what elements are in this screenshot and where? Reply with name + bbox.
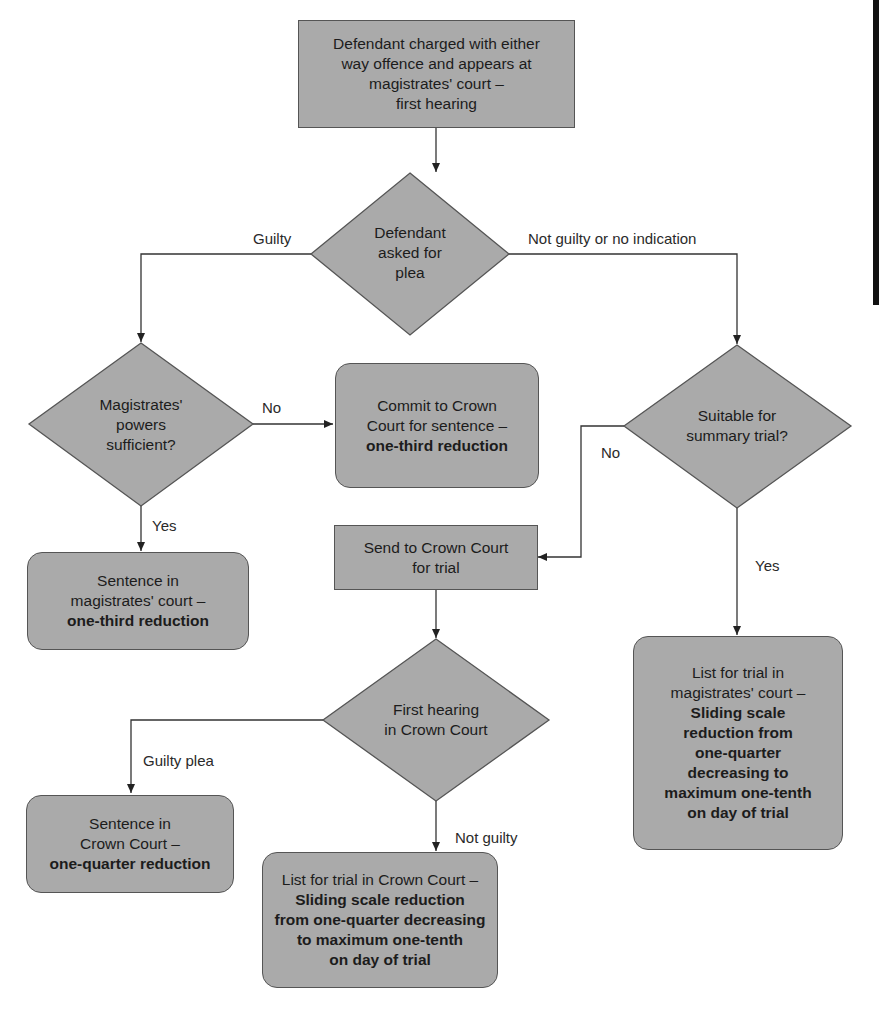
node-first-hearing-crown: First hearing in Crown Court [371, 697, 501, 743]
node-powers-line: Magistrates' [99, 395, 182, 415]
edge-label-not-guilty: Not guilty [455, 829, 518, 846]
node-start-line: Defendant charged with either [333, 34, 540, 54]
node-list-mags: List for trial in magistrates' court – S… [633, 636, 843, 850]
node-powers-line: powers [116, 415, 166, 435]
node-list-crown-line: List for trial in Crown Court – [282, 870, 478, 890]
node-first-hearing-line: First hearing [393, 700, 479, 720]
node-commit-bold-line: one-third reduction [366, 436, 508, 456]
node-sentence-crown: Sentence in Crown Court – one-quarter re… [26, 795, 234, 893]
node-list-mags-bold-line: decreasing to [688, 763, 789, 783]
node-first-hearing-line: in Crown Court [384, 720, 487, 740]
node-sentence-mags-line: Sentence in [97, 571, 179, 591]
node-list-mags-bold-line: one-quarter [695, 743, 781, 763]
node-sentence-crown-line: Sentence in [89, 814, 171, 834]
node-send-crown: Send to Crown Court for trial [334, 525, 538, 590]
node-powers: Magistrates' powers sufficient? [81, 392, 201, 458]
node-plea-line: asked for [378, 243, 442, 263]
node-powers-line: sufficient? [106, 435, 176, 455]
node-list-crown: List for trial in Crown Court – Sliding … [262, 852, 498, 988]
node-suitable-line: Suitable for [698, 406, 776, 426]
edge-label-powers-yes: Yes [152, 517, 176, 534]
edge-label-guilty: Guilty [253, 230, 291, 247]
edge-plea-to-powers [141, 254, 311, 342]
node-list-mags-bold-line: reduction from [683, 723, 792, 743]
node-start-line: first hearing [396, 94, 477, 114]
node-send-crown-line: for trial [412, 558, 459, 578]
node-list-mags-bold-line: maximum one-tenth [664, 783, 811, 803]
edge-label-suitable-yes: Yes [755, 557, 779, 574]
node-list-crown-bold-line: Sliding scale reduction [295, 890, 465, 910]
node-plea: Defendant asked for plea [350, 220, 470, 286]
node-send-crown-line: Send to Crown Court [364, 538, 509, 558]
edge-label-guilty-plea: Guilty plea [143, 752, 214, 769]
node-list-mags-bold-line: on day of trial [687, 803, 789, 823]
page-edge-bar [873, 0, 879, 305]
node-sentence-mags-bold-line: one-third reduction [67, 611, 209, 631]
node-suitable-line: summary trial? [686, 426, 788, 446]
node-plea-line: Defendant [374, 223, 446, 243]
node-sentence-crown-bold-line: one-quarter reduction [49, 854, 210, 874]
edge-label-not-guilty-or-no-indication: Not guilty or no indication [528, 230, 696, 247]
edge-plea-to-suitable [509, 254, 737, 344]
node-start-line: magistrates' court – [369, 74, 504, 94]
node-list-mags-line: List for trial in [692, 663, 784, 683]
node-sentence-mags: Sentence in magistrates' court – one-thi… [27, 552, 249, 650]
node-suitable: Suitable for summary trial? [672, 403, 802, 449]
node-list-mags-line: magistrates' court – [671, 683, 806, 703]
node-plea-line: plea [395, 263, 424, 283]
edge-label-suitable-no: No [601, 444, 620, 461]
node-commit: Commit to Crown Court for sentence – one… [335, 363, 539, 488]
node-start-line: way offence and appears at [341, 54, 531, 74]
node-start: Defendant charged with either way offenc… [298, 20, 575, 128]
node-list-crown-bold-line: to maximum one-tenth [297, 930, 463, 950]
node-list-crown-bold-line: from one-quarter decreasing [274, 910, 485, 930]
node-sentence-mags-line: magistrates' court – [71, 591, 206, 611]
node-commit-line: Commit to Crown [377, 396, 497, 416]
edge-label-powers-no: No [262, 399, 281, 416]
node-list-crown-bold-line: on day of trial [329, 950, 431, 970]
node-commit-line: Court for sentence – [367, 416, 507, 436]
node-list-mags-bold-line: Sliding scale [691, 703, 786, 723]
node-sentence-crown-line: Crown Court – [80, 834, 180, 854]
